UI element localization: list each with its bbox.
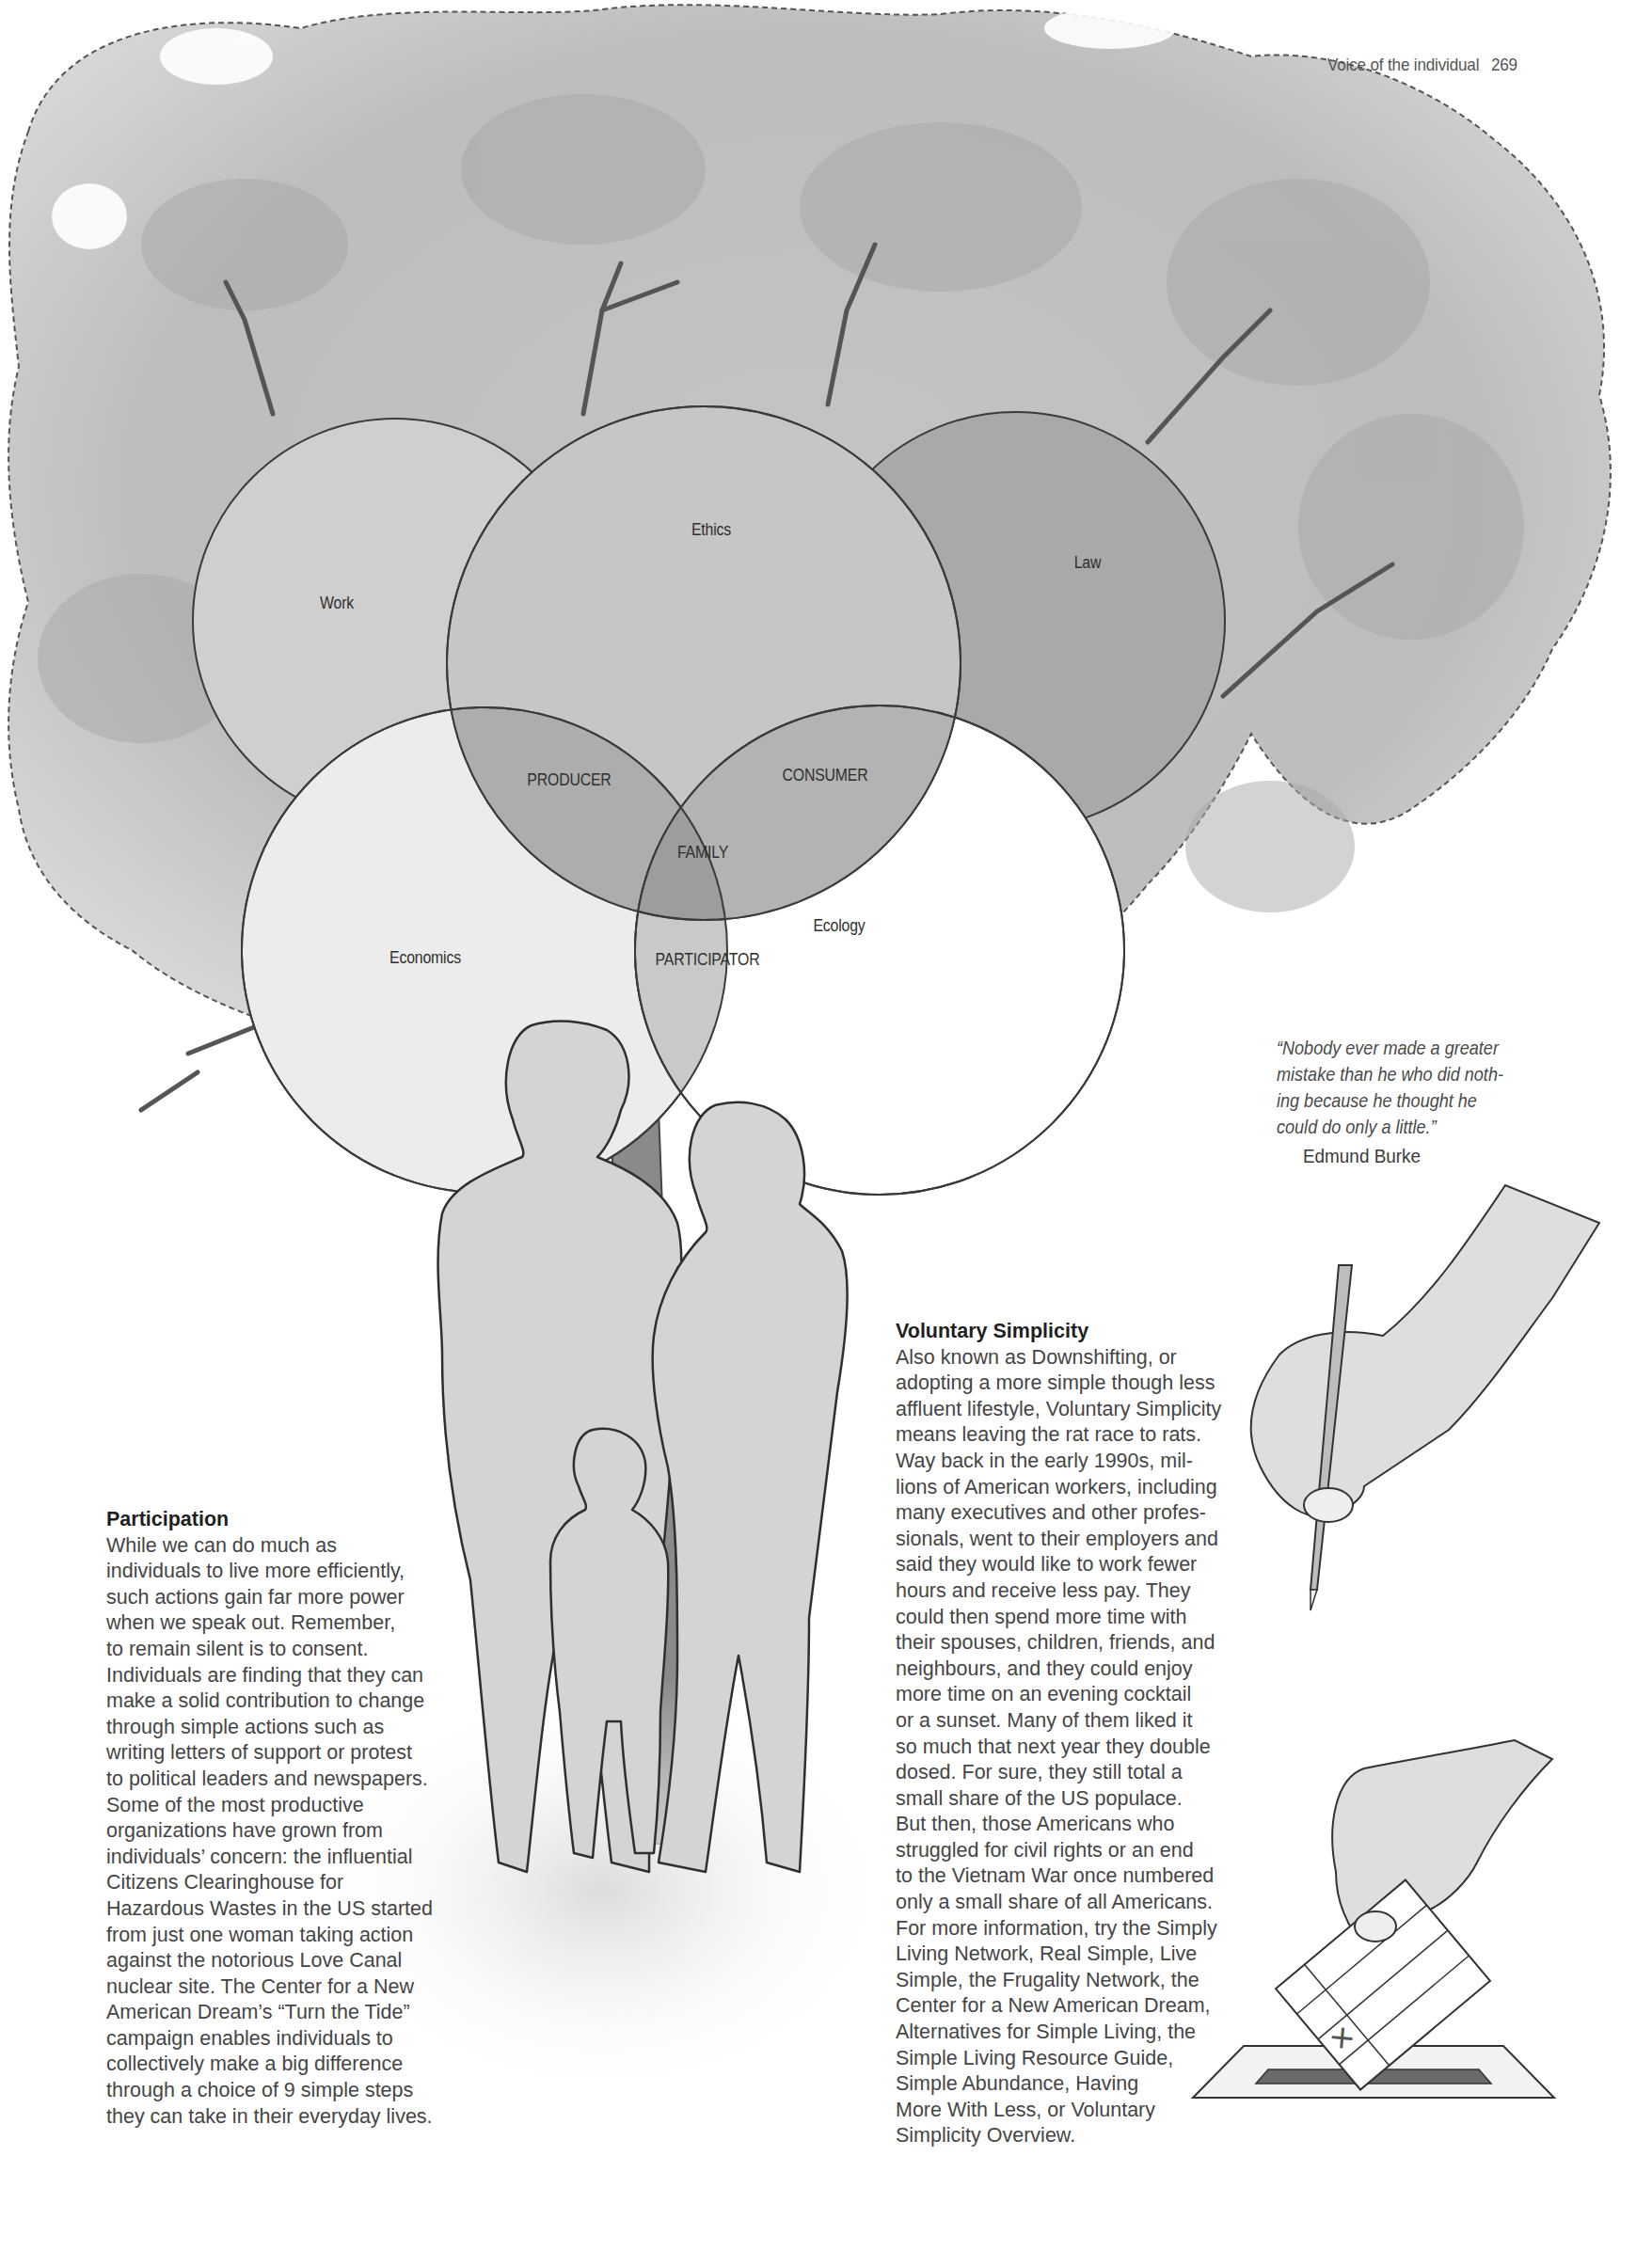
quote-author: Edmund Burke bbox=[1303, 1145, 1421, 1167]
venn-label-participator: PARTICIPATOR bbox=[656, 950, 760, 970]
voluntary-simplicity-heading: Voluntary Simplicity bbox=[896, 1319, 1244, 1345]
voluntary-simplicity-section: Voluntary Simplicity Also known as Downs… bbox=[896, 1319, 1244, 2149]
venn-label-consumer: CONSUMER bbox=[783, 766, 868, 785]
quote-line: mistake than he who did noth- bbox=[1277, 1061, 1519, 1087]
venn-label-work: Work bbox=[320, 594, 354, 613]
venn-label-producer: PRODUCER bbox=[527, 770, 611, 790]
book-page: ✕ Voice of the individual269 Work Ethics… bbox=[0, 0, 1652, 2251]
participation-body: While we can do much as individuals to l… bbox=[106, 1533, 454, 2131]
venn-label-economics: Economics bbox=[389, 948, 461, 968]
participation-section: Participation While we can do much as in… bbox=[106, 1507, 454, 2130]
quote-line: “Nobody ever made a greater bbox=[1277, 1035, 1519, 1061]
venn-label-family: FAMILY bbox=[677, 843, 728, 863]
running-head: Voice of the individual269 bbox=[1327, 55, 1517, 75]
voluntary-simplicity-body: Also known as Downshifting, or adopting … bbox=[896, 1345, 1244, 2149]
running-head-section: Voice of the individual bbox=[1327, 55, 1479, 74]
quote-line: ing because he thought he bbox=[1277, 1087, 1519, 1114]
participation-heading: Participation bbox=[106, 1507, 454, 1533]
page-number: 269 bbox=[1491, 55, 1517, 74]
pencil-hand-illustration bbox=[1251, 1185, 1599, 1610]
ballot-box-illustration: ✕ bbox=[1193, 1740, 1554, 2098]
venn-label-ecology: Ecology bbox=[813, 916, 865, 936]
venn-label-ethics: Ethics bbox=[691, 520, 731, 540]
pull-quote: “Nobody ever made a greater mistake than… bbox=[1277, 1035, 1519, 1140]
quote-line: could do only a little.” bbox=[1277, 1114, 1519, 1140]
venn-label-law: Law bbox=[1074, 553, 1102, 573]
